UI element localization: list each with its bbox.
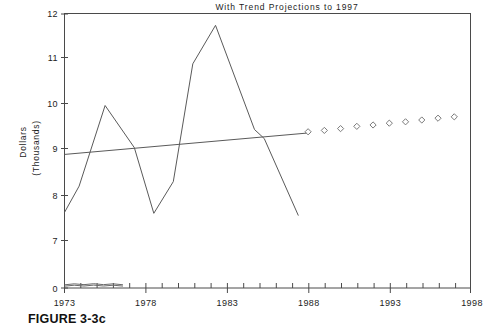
ytick-label-7: 7 — [53, 236, 58, 246]
projection-marker — [337, 126, 343, 132]
projection-marker — [451, 114, 457, 120]
projection-marker — [370, 122, 376, 128]
plot-frame — [65, 14, 471, 289]
ytick-label-11: 11 — [48, 53, 58, 63]
figure-caption: FIGURE 3-3c — [28, 312, 106, 326]
y-axis-title: Dollars — [18, 126, 28, 157]
y-axis-subtitle: (Thousands) — [31, 120, 41, 175]
xtick-label-1973: 1973 — [54, 298, 76, 308]
ytick-label-12: 12 — [47, 9, 58, 19]
projection-marker — [354, 123, 360, 129]
ytick-label-9: 9 — [53, 144, 58, 154]
projection-marker — [305, 129, 311, 135]
xtick-label-1988: 1988 — [298, 298, 320, 308]
figure-container: With Trend Projections to 1997 12 11 10 … — [0, 0, 501, 331]
chart-canvas: With Trend Projections to 1997 12 11 10 … — [0, 0, 501, 331]
ytick-label-8: 8 — [53, 191, 58, 201]
xtick-label-1983: 1983 — [217, 298, 239, 308]
ytick-label-10: 10 — [47, 99, 58, 109]
projection-marker — [435, 115, 441, 121]
ytick-label-0: 0 — [53, 284, 58, 294]
projection-marker — [321, 127, 327, 133]
series-markers-projection — [305, 114, 457, 135]
series-layer — [65, 25, 458, 286]
projection-marker — [402, 119, 408, 125]
series-line-baseline-lower — [65, 285, 123, 286]
chart-title: With Trend Projections to 1997 — [215, 2, 358, 12]
xtick-label-1998: 1998 — [461, 298, 483, 308]
projection-marker — [386, 120, 392, 126]
xtick-label-1993: 1993 — [379, 298, 401, 308]
projection-marker — [419, 117, 425, 123]
xtick-label-1978: 1978 — [135, 298, 157, 308]
series-line-actual — [65, 25, 299, 215]
x-minor-tick-marks — [81, 283, 456, 288]
